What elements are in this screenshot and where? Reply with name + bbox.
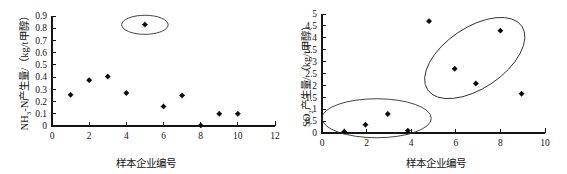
chart-panel-nh3n: 00.10.20.30.40.50.60.70.80.9 024681012 样… xyxy=(0,0,284,174)
y-tick-label: 0.2 xyxy=(35,97,47,107)
so2-axes xyxy=(322,14,545,133)
nh3n-y-axis-title: NH3-N产生量/（kg/t甲醇） xyxy=(18,11,33,130)
x-tick-label: 4 xyxy=(124,131,129,141)
so2-x-axis-title: 样本企业编号 xyxy=(406,157,466,169)
so2-data-points xyxy=(342,18,525,134)
y-tick-label: 3 xyxy=(312,57,317,67)
y-tick-label: 0 xyxy=(312,128,317,138)
nh3n-y-axis-title-rest: -N产生量/（kg/t甲醇） xyxy=(18,11,30,111)
nh3n-x-tick-labels: 024681012 xyxy=(50,131,280,141)
x-tick-label: 2 xyxy=(87,131,92,141)
axis-lines xyxy=(52,16,275,126)
y-tick-label: 2 xyxy=(312,81,317,91)
chart-panel-so2: 00.511.522.533.544.55 0246810 样本企业编号 SO2… xyxy=(284,0,567,174)
nh3n-y-tick-labels: 00.10.20.30.40.50.60.70.80.9 xyxy=(35,11,47,131)
y-tick-label: 0.7 xyxy=(35,36,47,46)
x-tick-label: 4 xyxy=(409,138,414,148)
nh3n-x-axis-title: 样本企业编号 xyxy=(116,157,176,169)
annotation-ellipse xyxy=(411,1,539,115)
y-tick-label: 5 xyxy=(312,9,317,19)
y-tick-label: 0.9 xyxy=(35,11,47,21)
nh3n-data-points xyxy=(68,22,241,128)
so2-y-axis-title-lead: SO xyxy=(301,113,312,127)
x-tick-label: 12 xyxy=(270,131,280,141)
x-tick-label: 2 xyxy=(364,138,369,148)
y-tick-label: 0.1 xyxy=(35,109,47,119)
so2-scatter-svg: 00.511.522.533.544.55 0246810 样本企业编号 SO2… xyxy=(284,0,567,174)
x-tick-label: 0 xyxy=(50,131,55,141)
so2-y-axis-title-rest: 产生量/（kg/t甲醇） xyxy=(300,21,312,110)
nh3n-y-axis-title-lead: NH xyxy=(19,115,30,131)
x-tick-label: 10 xyxy=(233,131,243,141)
y-tick-label: 0.8 xyxy=(35,23,47,33)
annotation-ellipse xyxy=(322,99,431,138)
y-tick-label: 0.6 xyxy=(35,48,47,58)
x-tick-label: 10 xyxy=(540,138,550,148)
nh3n-scatter-svg: 00.10.20.30.40.50.60.70.80.9 024681012 样… xyxy=(0,0,284,174)
y-tick-label: 0.4 xyxy=(35,72,47,82)
x-tick-label: 0 xyxy=(320,138,325,148)
y-tick-label: 0.3 xyxy=(35,85,47,95)
so2-x-tick-labels: 0246810 xyxy=(320,138,550,148)
svg-text:NH3-N产生量/（kg/t甲醇）: NH3-N产生量/（kg/t甲醇） xyxy=(18,11,33,130)
x-tick-label: 6 xyxy=(161,131,166,141)
x-tick-label: 8 xyxy=(198,131,203,141)
two-panel-scatter-figure: 00.10.20.30.40.50.60.70.80.9 024681012 样… xyxy=(0,0,567,174)
axis-lines xyxy=(322,14,545,133)
nh3n-axes xyxy=(52,16,275,126)
x-tick-label: 6 xyxy=(453,138,458,148)
x-tick-label: 8 xyxy=(498,138,503,148)
y-tick-label: 0.5 xyxy=(35,60,47,70)
y-tick-label: 4 xyxy=(312,33,317,43)
y-tick-label: 0 xyxy=(42,121,47,131)
